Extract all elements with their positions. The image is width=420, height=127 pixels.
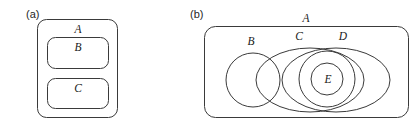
figure-canvas: (a) A B C (b) A B C D E (0, 0, 420, 127)
panel-b-label: (b) (190, 8, 203, 20)
set-label-a-panel-a: A (73, 23, 82, 35)
set-label-b-panel-b: B (247, 35, 254, 47)
panel-b: (b) A B C D E (190, 8, 409, 118)
set-label-c-panel-b: C (295, 30, 303, 42)
set-label-d-panel-b: D (338, 30, 348, 42)
set-b-circle-panel-b (226, 53, 280, 107)
panel-a: (a) A B C (26, 8, 118, 118)
venn-diagram-figure: (a) A B C (b) A B C D E (0, 0, 420, 127)
panel-a-label: (a) (26, 8, 39, 20)
set-d-ellipse-panel-b (282, 48, 390, 112)
set-c-ellipse-panel-b (256, 48, 364, 112)
set-a-rect-panel-b (205, 27, 409, 118)
set-label-b-panel-a: B (74, 41, 81, 53)
set-label-e-panel-b: E (323, 73, 331, 85)
set-label-c-panel-a: C (74, 82, 82, 94)
set-label-a-panel-b: A (301, 12, 310, 24)
